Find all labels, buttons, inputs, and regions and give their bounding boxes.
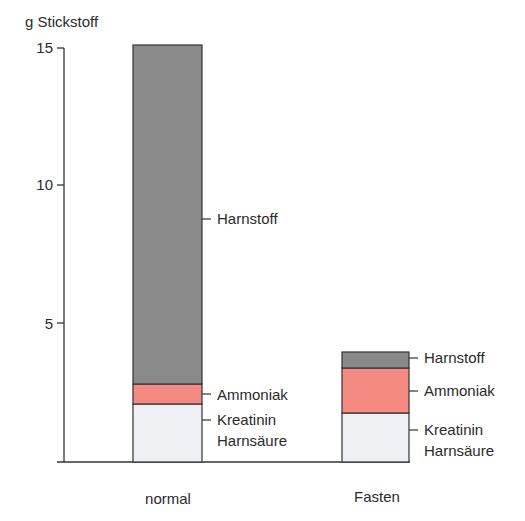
- category-label-fasten: Fasten: [354, 488, 400, 505]
- label-normal-kreatinin: Kreatinin: [217, 411, 276, 428]
- y-tick-5: 5: [45, 315, 53, 332]
- segment-normal-harnstoff: [133, 45, 202, 384]
- segment-normal-ammoniak: [133, 384, 202, 404]
- y-tick-15: 15: [36, 39, 53, 56]
- label-fasten-harnsaeure: Harnsäure: [424, 442, 494, 459]
- stacked-bar-chart: g Stickstoff 15 10 5 Harnstoff Ammoniak …: [0, 0, 525, 521]
- bar-fasten: [342, 352, 409, 462]
- segment-normal-kreatinin-harnsaeure: [133, 404, 202, 462]
- y-axis: [57, 48, 64, 462]
- label-normal-ammoniak: Ammoniak: [217, 386, 288, 403]
- y-axis-label: g Stickstoff: [25, 13, 99, 30]
- label-fasten-ammoniak: Ammoniak: [424, 382, 495, 399]
- bar-normal: [133, 45, 202, 462]
- category-label-normal: normal: [145, 490, 191, 507]
- labels-normal: [202, 219, 211, 420]
- labels-fasten: [409, 358, 418, 430]
- segment-fasten-kreatinin-harnsaeure: [342, 413, 409, 462]
- segment-fasten-harnstoff: [342, 352, 409, 368]
- label-fasten-harnstoff: Harnstoff: [424, 349, 485, 366]
- y-tick-10: 10: [36, 176, 53, 193]
- label-normal-harnstoff: Harnstoff: [217, 210, 278, 227]
- label-normal-harnsaeure: Harnsäure: [217, 432, 287, 449]
- segment-fasten-ammoniak: [342, 368, 409, 413]
- label-fasten-kreatinin: Kreatinin: [424, 421, 483, 438]
